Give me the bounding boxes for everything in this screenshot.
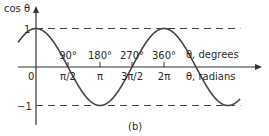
- y-tick-label-1: 1: [24, 24, 30, 35]
- x-axis-label-degrees: θ, degrees: [186, 49, 239, 60]
- x-tick-label-degrees: 180°: [88, 50, 112, 61]
- x-tick-label-degrees: 90°: [59, 50, 77, 61]
- y-axis-label: cos θ: [4, 3, 30, 14]
- x-tick-label-degrees: 360°: [152, 50, 176, 61]
- axes: [18, 6, 262, 125]
- x-tick-label-radians: 3π/2: [121, 71, 143, 82]
- cosine-chart: 90°π/2180°π270°3π/2360°2π cos θ 1 −1 0 θ…: [0, 0, 269, 136]
- x-tick-label-radians: π/2: [60, 71, 76, 82]
- figure-caption: (b): [128, 121, 142, 132]
- y-axis-arrow: [33, 6, 39, 13]
- x-tick-label-degrees: 270°: [120, 50, 144, 61]
- origin-label: 0: [28, 71, 34, 82]
- x-tick-label-radians: π: [97, 71, 103, 82]
- x-tick-label-radians: 2π: [158, 71, 170, 82]
- y-tick-label-minus-1: −1: [17, 101, 32, 112]
- x-ticks: 90°π/2180°π270°3π/2360°2π: [59, 50, 176, 82]
- x-axis-arrow: [255, 64, 262, 70]
- x-axis-label-radians: θ, radians: [186, 71, 236, 82]
